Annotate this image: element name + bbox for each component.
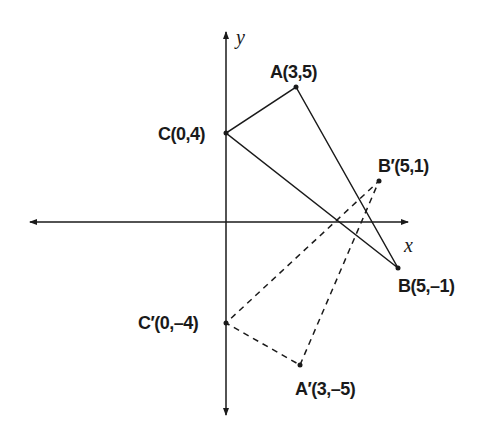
- label-a: A(3,5): [270, 62, 318, 82]
- coordinate-plane: x y A(3,5) B(5,–1) C(0,4) A′(3,–5) B′(5,…: [0, 0, 494, 438]
- triangle-abc-prime: [226, 181, 379, 365]
- triangle-abc: [226, 87, 398, 268]
- label-a-prime: A′(3,–5): [295, 379, 356, 399]
- label-c: C(0,4): [158, 124, 206, 144]
- point-b: [396, 266, 401, 271]
- point-b-prime: [377, 179, 382, 184]
- point-a-prime: [298, 363, 303, 368]
- x-axis-label: x: [403, 234, 413, 256]
- point-a: [294, 85, 299, 90]
- label-b-prime: B′(5,1): [378, 156, 429, 176]
- y-axis-label: y: [234, 26, 245, 49]
- point-c-prime: [224, 321, 229, 326]
- reflection-diagram: x y A(3,5) B(5,–1) C(0,4) A′(3,–5) B′(5,…: [0, 0, 494, 438]
- label-c-prime: C′(0,–4): [138, 313, 199, 333]
- label-b: B(5,–1): [398, 276, 455, 296]
- point-c: [224, 131, 229, 136]
